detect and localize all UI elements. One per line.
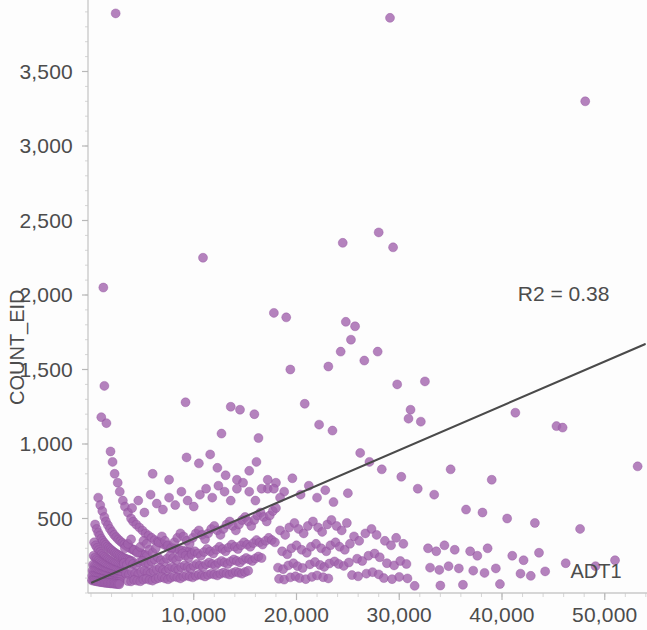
r-squared: R2 = 0.38 — [518, 282, 610, 305]
data-point — [341, 317, 350, 326]
data-point — [134, 496, 143, 505]
data-point — [208, 493, 217, 502]
data-point — [221, 471, 230, 480]
data-point — [354, 572, 363, 581]
data-point — [530, 518, 539, 527]
data-point — [269, 484, 278, 493]
data-point — [379, 574, 388, 583]
data-point — [251, 496, 260, 505]
data-point — [508, 551, 517, 560]
x-tick-label: 50,000 — [572, 603, 637, 626]
x-tick-label: 20,000 — [264, 603, 329, 626]
data-point — [257, 484, 266, 493]
x-tick-label: 10,000 — [161, 603, 226, 626]
plot-canvas: 5001,0001,5002,0002,5003,0003,500 10,000… — [0, 0, 647, 630]
data-point — [113, 478, 122, 487]
data-point — [226, 496, 235, 505]
data-point — [469, 566, 478, 575]
data-point — [373, 347, 382, 356]
data-point — [503, 514, 512, 523]
y-tick-label: 3,500 — [19, 60, 73, 83]
data-point — [220, 487, 229, 496]
y-tick-label: 500 — [37, 507, 73, 530]
y-tick-label: 1,000 — [19, 432, 73, 455]
data-point — [102, 419, 111, 428]
data-point — [446, 465, 455, 474]
data-point — [344, 558, 353, 567]
data-point — [115, 487, 124, 496]
data-point — [374, 228, 383, 237]
data-point — [324, 574, 333, 583]
data-point — [329, 498, 338, 507]
data-point — [313, 493, 322, 502]
data-point — [395, 572, 404, 581]
data-point — [99, 283, 108, 292]
data-point — [397, 472, 406, 481]
scatter-chart: 5001,0001,5002,0002,5003,0003,500 10,000… — [0, 0, 647, 630]
data-point — [487, 475, 496, 484]
data-point — [633, 462, 642, 471]
data-point — [108, 457, 117, 466]
data-point — [581, 97, 590, 106]
data-point — [356, 448, 365, 457]
data-point — [435, 565, 444, 574]
data-point — [177, 487, 186, 496]
data-point — [244, 566, 253, 575]
data-point — [328, 426, 337, 435]
data-point — [158, 505, 167, 514]
data-point — [206, 450, 215, 459]
data-point — [324, 362, 333, 371]
data-point — [213, 463, 222, 472]
data-point — [351, 322, 360, 331]
data-point — [171, 501, 180, 510]
data-point — [239, 478, 248, 487]
data-point — [269, 308, 278, 317]
data-point — [146, 490, 155, 499]
data-point — [254, 434, 263, 443]
data-point — [404, 414, 413, 423]
data-point — [181, 398, 190, 407]
y-axis-title: COUNT_EID — [6, 289, 29, 405]
data-point — [286, 365, 295, 374]
data-point — [257, 553, 266, 562]
data-point — [480, 568, 489, 577]
data-point — [516, 569, 525, 578]
data-point — [250, 410, 259, 419]
data-point — [202, 484, 211, 493]
data-point — [100, 381, 109, 390]
data-point — [342, 518, 351, 527]
data-point — [495, 580, 504, 589]
data-point — [426, 563, 435, 572]
data-point — [392, 533, 401, 542]
data-point — [402, 559, 411, 568]
data-point — [458, 580, 467, 589]
x-axis-tick-labels: 10,00020,00030,00040,00050,000 — [161, 603, 637, 626]
data-point — [148, 469, 157, 478]
data-point — [561, 559, 570, 568]
data-point — [440, 541, 449, 550]
y-tick-label: 2,500 — [19, 209, 73, 232]
data-point — [336, 347, 345, 356]
data-point — [315, 420, 324, 429]
data-point — [199, 253, 208, 262]
data-point — [526, 571, 535, 580]
data-point — [377, 465, 386, 474]
data-point — [491, 564, 500, 573]
data-point — [372, 530, 381, 539]
data-point — [424, 544, 433, 553]
y-tick-label: 3,000 — [19, 134, 73, 157]
trendline — [92, 344, 645, 582]
data-point — [386, 13, 395, 22]
data-point — [245, 487, 254, 496]
data-point — [217, 429, 226, 438]
data-point — [245, 466, 254, 475]
data-point — [189, 502, 198, 511]
data-point — [399, 539, 408, 548]
data-point — [346, 335, 355, 344]
x-axis-title: ADT1 — [570, 560, 621, 582]
data-point — [282, 313, 291, 322]
data-point — [128, 504, 137, 513]
data-point — [444, 562, 453, 571]
data-point — [288, 474, 297, 483]
data-point — [450, 545, 459, 554]
